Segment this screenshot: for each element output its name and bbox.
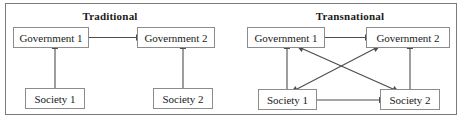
node-society-1-traditional: Society 1 bbox=[25, 88, 85, 109]
node-government-1-transnational: Government 1 bbox=[247, 27, 325, 48]
node-government-1-traditional: Government 1 bbox=[13, 27, 89, 48]
node-government-2-transnational: Government 2 bbox=[366, 27, 450, 48]
transnational-relations-diagram: Traditional Government 1 Government 2 So… bbox=[0, 0, 463, 123]
panel-title-transnational: Transnational bbox=[316, 10, 384, 22]
node-society-2-transnational: Society 2 bbox=[380, 89, 440, 110]
panel-title-traditional: Traditional bbox=[82, 10, 137, 22]
node-society-1-transnational: Society 1 bbox=[258, 89, 317, 110]
node-government-2-traditional: Government 2 bbox=[137, 27, 215, 48]
node-society-2-traditional: Society 2 bbox=[153, 88, 213, 109]
